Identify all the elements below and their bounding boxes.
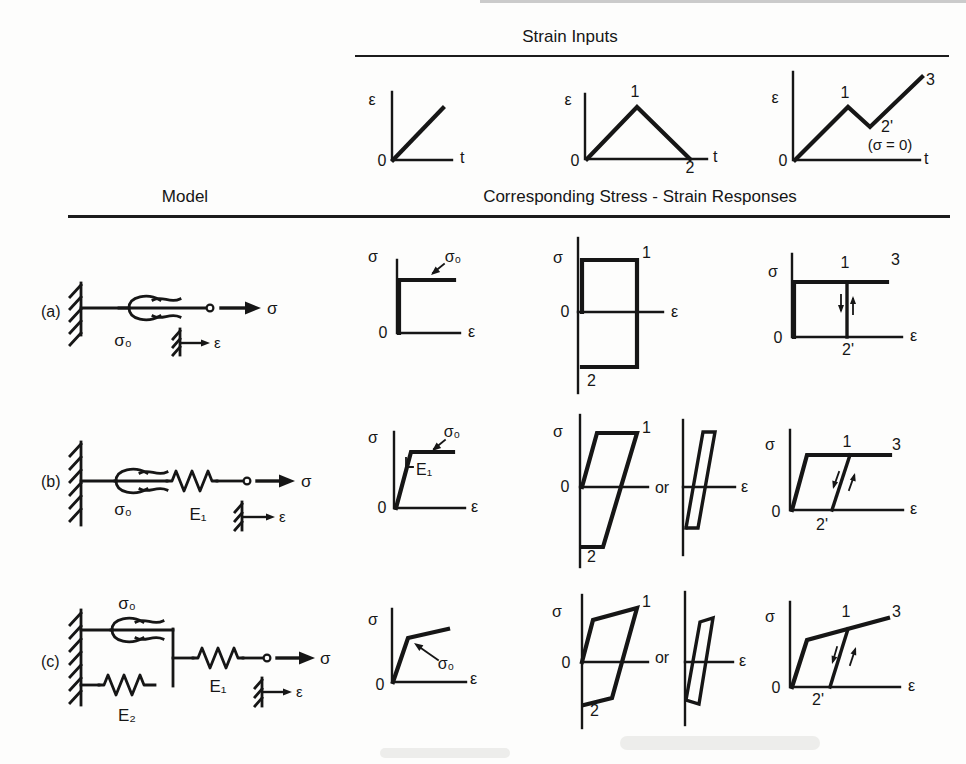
scan-edge-artifact bbox=[480, 0, 966, 3]
response-a-reload: σ 0 ε 1 3 2' bbox=[765, 240, 925, 365]
response-a-cycle: σ 0 ε 1 2 bbox=[545, 230, 685, 400]
spring-icon bbox=[193, 648, 243, 668]
x-axis-label: t bbox=[713, 148, 718, 165]
x-axis-label: ε bbox=[739, 652, 746, 669]
strain-ramp-curve bbox=[393, 108, 443, 160]
y-axis-label: ε bbox=[771, 89, 778, 106]
slope-label: E₁ bbox=[416, 461, 432, 478]
origin-label: 0 bbox=[571, 152, 580, 169]
point-3-label: 3 bbox=[892, 603, 901, 620]
y-axis-label: ε bbox=[368, 91, 375, 108]
response-c-monotonic: σ 0 ε σ₀ bbox=[360, 595, 480, 700]
wall-hatching bbox=[70, 283, 81, 345]
strain-input-plot-reload: ε 0 t 1 2' (σ = 0) 3 bbox=[750, 58, 966, 180]
or-label: or bbox=[655, 649, 670, 666]
point-2prime-label: 2' bbox=[816, 516, 828, 533]
strain-inputs-underline bbox=[355, 55, 949, 57]
row-c-tag: (c) bbox=[41, 653, 60, 670]
strain-inputs-title: Strain Inputs bbox=[430, 27, 710, 47]
point-1-label: 1 bbox=[843, 433, 852, 450]
y-axis-label: σ bbox=[768, 263, 778, 280]
point-2-label: 2 bbox=[587, 548, 596, 565]
point-1-label: 1 bbox=[841, 84, 850, 101]
y-axis-label: σ bbox=[553, 249, 563, 266]
row-a-tag: (a) bbox=[41, 303, 61, 320]
response-curve bbox=[399, 280, 454, 333]
unload-reload-arrows bbox=[829, 646, 859, 665]
wall-hatching bbox=[70, 610, 81, 705]
axes bbox=[392, 609, 466, 682]
point-3-label: 3 bbox=[891, 251, 900, 268]
point-1-label: 1 bbox=[642, 244, 651, 261]
axes bbox=[397, 260, 460, 333]
point-2-label: 2 bbox=[686, 159, 695, 176]
yield-pointer-arrow bbox=[412, 640, 438, 660]
model-b-elastic-perfectly-plastic: (b) σ σ₀ E₁ ε bbox=[35, 430, 325, 540]
strain-input-plot-ramp: ε 0 t bbox=[330, 75, 480, 175]
spring-icon bbox=[167, 471, 217, 491]
epsilon-label: ε bbox=[296, 683, 303, 700]
stress-arrow-icon bbox=[277, 652, 315, 665]
slider-yield-label: σ₀ bbox=[114, 331, 132, 350]
y-axis-label: σ bbox=[765, 608, 775, 625]
pin-joint bbox=[264, 655, 271, 662]
origin-label: 0 bbox=[378, 152, 387, 169]
responses-column-title: Corresponding Stress - Strain Responses bbox=[420, 187, 860, 207]
strain-anchor-icon bbox=[235, 502, 242, 530]
response-b-reload: σ 0 ε 1 3 2' bbox=[760, 420, 925, 540]
sigma-label: σ bbox=[301, 472, 312, 491]
stress-arrow-icon bbox=[257, 475, 295, 488]
pin-joint bbox=[207, 305, 214, 312]
x-axis-label: ε bbox=[910, 327, 917, 344]
point-2-label: 2 bbox=[587, 372, 596, 389]
origin-label: 0 bbox=[561, 303, 570, 320]
strain-arrow-icon bbox=[182, 340, 210, 347]
scan-smudge bbox=[380, 748, 510, 758]
origin-label: 0 bbox=[378, 499, 387, 516]
point-1-label: 1 bbox=[841, 254, 850, 271]
epsilon-label: ε bbox=[279, 508, 286, 525]
axes bbox=[585, 94, 707, 159]
sigma-label: σ bbox=[267, 299, 278, 318]
point-2-label: 2 bbox=[590, 702, 599, 719]
point-3-label: 3 bbox=[892, 436, 901, 453]
or-label: or bbox=[655, 479, 670, 496]
y-axis-label: σ bbox=[765, 436, 775, 453]
x-axis-label: ε bbox=[908, 677, 915, 694]
origin-label: 0 bbox=[772, 679, 781, 696]
y-axis-label: σ bbox=[553, 423, 563, 440]
response-b-monotonic: σ 0 ε σ₀ E₁ bbox=[360, 420, 480, 520]
spring-stiffness-label: E₁ bbox=[189, 505, 206, 524]
x-axis-label: ε bbox=[671, 303, 678, 320]
y-axis-label: σ bbox=[368, 611, 378, 628]
response-a-monotonic: σ 0 ε σ₀ bbox=[360, 245, 480, 345]
strain-anchor-icon bbox=[255, 678, 262, 706]
wall-hatching bbox=[70, 442, 81, 525]
response-c-alternative: or ε bbox=[645, 590, 755, 740]
origin-label: 0 bbox=[779, 152, 788, 169]
spring1-stiffness-label: E₁ bbox=[209, 677, 226, 696]
y-axis-label: σ bbox=[368, 429, 378, 446]
x-axis-label: t bbox=[924, 150, 929, 167]
yield-stress-label: σ₀ bbox=[444, 423, 461, 440]
spring2-stiffness-label: E₂ bbox=[118, 706, 136, 725]
strain-arrow-icon bbox=[244, 514, 275, 521]
stable-loop bbox=[686, 432, 715, 528]
origin-label: 0 bbox=[562, 654, 571, 671]
model-column-title: Model bbox=[130, 187, 240, 207]
point-2prime-label: 2' bbox=[881, 118, 893, 135]
point-1-label: 1 bbox=[631, 83, 640, 100]
x-axis-label: ε bbox=[471, 498, 478, 515]
strain-triangle-curve bbox=[587, 107, 690, 159]
response-c-reload: σ 0 ε 1 3 2' bbox=[760, 595, 925, 715]
pin-joint bbox=[244, 478, 251, 485]
figure-page: { "colors": {"ink": "#161616", "paper": … bbox=[0, 0, 966, 764]
slider-yield-label: σ₀ bbox=[114, 500, 132, 519]
hysteresis-loop bbox=[582, 260, 637, 367]
hysteresis-loop bbox=[582, 433, 637, 547]
point-3-label: 3 bbox=[926, 71, 935, 88]
x-axis-label: ε bbox=[470, 670, 477, 687]
x-axis-label: ε bbox=[468, 323, 475, 340]
stress-arrow-icon bbox=[221, 302, 261, 315]
point-1-label: 1 bbox=[842, 603, 851, 620]
